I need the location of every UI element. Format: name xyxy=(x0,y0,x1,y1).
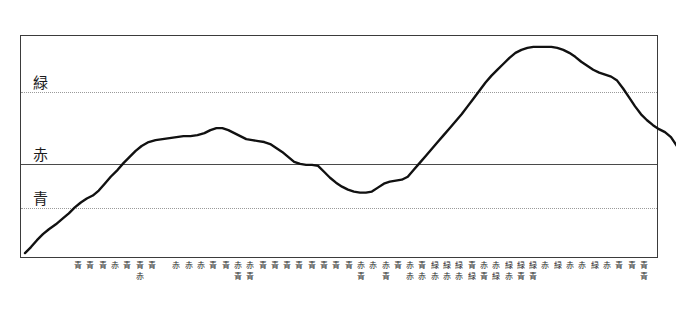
x-tick-label: 青 xyxy=(121,260,133,271)
x-tick-label: 青赤 xyxy=(416,260,428,282)
x-tick-label: 青 xyxy=(281,260,293,271)
series-line xyxy=(25,47,676,253)
x-tick-char: 青 xyxy=(380,271,392,282)
x-tick-char: 赤 xyxy=(490,260,502,271)
x-tick-char: 赤 xyxy=(453,271,465,282)
x-tick-char: 青 xyxy=(121,260,133,271)
x-tick-label: 青 xyxy=(293,260,305,271)
x-tick-label: 緑赤 xyxy=(429,260,441,282)
line-chart: 緑 赤 青 青青青赤青青赤青赤赤赤青青赤青赤青青青青青青青青青赤青赤赤青青赤赤青… xyxy=(0,0,676,311)
x-tick-label: 赤青 xyxy=(380,260,392,282)
x-tick-label: 青 xyxy=(306,260,318,271)
x-tick-label: 青 xyxy=(72,260,84,271)
x-tick-char: 緑 xyxy=(466,271,478,282)
x-tick-char: 青 xyxy=(134,260,146,271)
x-tick-label: 青青 xyxy=(638,260,650,282)
x-tick-label: 緑 xyxy=(552,260,564,271)
x-tick-char: 青 xyxy=(330,260,342,271)
x-tick-char: 赤 xyxy=(503,271,515,282)
x-tick-label: 緑赤 xyxy=(503,260,515,282)
x-tick-char: 赤 xyxy=(441,271,453,282)
x-tick-char: 青 xyxy=(146,260,158,271)
x-tick-label: 青赤 xyxy=(134,260,146,282)
x-tick-label: 青 xyxy=(220,260,232,271)
x-tick-char: 赤 xyxy=(404,271,416,282)
x-tick-char: 青 xyxy=(466,260,478,271)
x-tick-char: 青 xyxy=(232,271,244,282)
x-tick-label: 青 xyxy=(269,260,281,271)
x-tick-char: 緑 xyxy=(429,260,441,271)
x-tick-label: 赤 xyxy=(601,260,613,271)
x-tick-label: 青緑 xyxy=(466,260,478,282)
x-tick-label: 青 xyxy=(330,260,342,271)
x-tick-char: 青 xyxy=(416,260,428,271)
x-tick-label: 赤 xyxy=(170,260,182,271)
x-axis-tick-labels: 青青青赤青青赤青赤赤赤青青赤青赤青青青青青青青青青赤青赤赤青青赤赤青赤緑赤緑赤緑… xyxy=(20,260,658,311)
x-tick-label: 赤 xyxy=(576,260,588,271)
x-tick-char: 赤 xyxy=(380,260,392,271)
x-tick-char: 赤 xyxy=(601,260,613,271)
x-tick-label: 赤 xyxy=(183,260,195,271)
x-tick-label: 青 xyxy=(146,260,158,271)
x-tick-char: 赤 xyxy=(539,260,551,271)
x-tick-char: 青 xyxy=(306,260,318,271)
x-tick-char: 青 xyxy=(343,260,355,271)
x-tick-char: 赤 xyxy=(367,260,379,271)
x-tick-char: 緑 xyxy=(527,260,539,271)
x-tick-label: 青 xyxy=(343,260,355,271)
x-tick-char: 青 xyxy=(355,271,367,282)
x-tick-label: 緑赤 xyxy=(441,260,453,282)
x-tick-label: 緑 xyxy=(589,260,601,271)
x-tick-label: 青 xyxy=(257,260,269,271)
x-tick-char: 青 xyxy=(97,260,109,271)
x-tick-char: 青 xyxy=(281,260,293,271)
x-tick-char: 青 xyxy=(244,271,256,282)
x-tick-char: 青 xyxy=(626,260,638,271)
x-tick-label: 赤 xyxy=(195,260,207,271)
x-tick-label: 青 xyxy=(84,260,96,271)
x-tick-label: 赤青 xyxy=(355,260,367,282)
x-tick-char: 赤 xyxy=(244,260,256,271)
x-tick-char: 青 xyxy=(269,260,281,271)
x-tick-char: 赤 xyxy=(134,271,146,282)
x-tick-char: 緑 xyxy=(441,260,453,271)
plot-area: 緑 赤 青 xyxy=(20,35,658,258)
x-tick-char: 青 xyxy=(207,260,219,271)
x-tick-char: 青 xyxy=(515,271,527,282)
x-tick-char: 緑 xyxy=(515,260,527,271)
x-tick-label: 赤 xyxy=(539,260,551,271)
x-tick-char: 青 xyxy=(478,271,490,282)
x-tick-char: 青 xyxy=(220,260,232,271)
x-tick-char: 青 xyxy=(527,271,539,282)
x-tick-label: 緑赤 xyxy=(453,260,465,282)
x-tick-label: 青 xyxy=(318,260,330,271)
x-tick-label: 青 xyxy=(97,260,109,271)
x-tick-label: 赤青 xyxy=(232,260,244,282)
x-tick-char: 青 xyxy=(257,260,269,271)
x-tick-label: 赤 xyxy=(564,260,576,271)
x-tick-char: 赤 xyxy=(195,260,207,271)
x-tick-char: 青 xyxy=(318,260,330,271)
x-tick-char: 赤 xyxy=(429,271,441,282)
x-tick-label: 緑青 xyxy=(527,260,539,282)
x-tick-label: 赤青 xyxy=(244,260,256,282)
x-tick-label: 赤緑 xyxy=(490,260,502,282)
x-tick-char: 赤 xyxy=(183,260,195,271)
x-tick-char: 青 xyxy=(638,260,650,271)
x-tick-char: 青 xyxy=(392,260,404,271)
x-tick-char: 赤 xyxy=(416,271,428,282)
x-tick-label: 赤赤 xyxy=(404,260,416,282)
x-tick-char: 赤 xyxy=(170,260,182,271)
x-tick-label: 赤 xyxy=(367,260,379,271)
x-tick-char: 赤 xyxy=(355,260,367,271)
x-tick-char: 赤 xyxy=(109,260,121,271)
x-tick-char: 赤 xyxy=(576,260,588,271)
x-tick-char: 赤 xyxy=(564,260,576,271)
x-tick-char: 赤 xyxy=(232,260,244,271)
x-tick-char: 緑 xyxy=(453,260,465,271)
x-tick-label: 緑青 xyxy=(515,260,527,282)
x-tick-label: 青 xyxy=(207,260,219,271)
x-tick-char: 青 xyxy=(638,271,650,282)
x-tick-char: 緑 xyxy=(552,260,564,271)
x-tick-char: 青 xyxy=(613,260,625,271)
